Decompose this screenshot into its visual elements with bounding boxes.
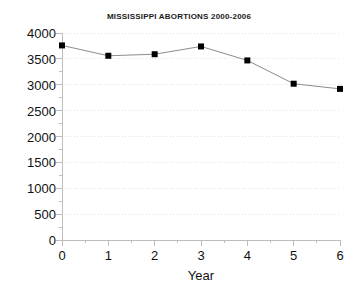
x-axis-tick-label: 2 [151, 248, 158, 263]
x-axis-tick-label: 4 [244, 248, 251, 263]
x-axis-tick-label: 6 [336, 248, 343, 263]
x-axis-tick-label: 0 [58, 248, 65, 263]
x-axis-title: Year [62, 268, 340, 283]
x-axis-tick-label: 3 [197, 248, 204, 263]
x-axis-tick-label: 5 [290, 248, 297, 263]
x-axis-tick-label: 1 [105, 248, 112, 263]
chart-container: MISSISSIPPI ABORTIONS 2000-2006 05001000… [0, 0, 358, 298]
x-axis-tick-labels: 0123456 [0, 0, 358, 298]
